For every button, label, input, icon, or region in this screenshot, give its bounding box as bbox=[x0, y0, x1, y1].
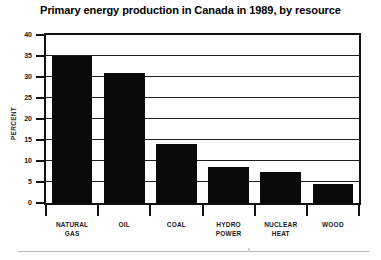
x-axis-tick bbox=[149, 205, 151, 216]
bar bbox=[313, 184, 354, 203]
y-axis-tick bbox=[36, 202, 44, 204]
page-rule-notch bbox=[248, 248, 250, 252]
y-axis-tick-label: 35 bbox=[0, 52, 32, 59]
y-axis-tick bbox=[36, 55, 44, 57]
x-axis-tick bbox=[306, 205, 308, 216]
bar-chart-figure: Primary energy production in Canada in 1… bbox=[0, 0, 381, 260]
bar-series bbox=[46, 35, 359, 203]
y-axis-tick-label: 0 bbox=[0, 199, 32, 206]
plot-area bbox=[44, 33, 361, 205]
y-axis-tick-label: 25 bbox=[0, 94, 32, 101]
y-axis-tick-label: 40 bbox=[0, 31, 32, 38]
x-axis-tick bbox=[254, 205, 256, 216]
y-axis-tick-label: 30 bbox=[0, 73, 32, 80]
y-axis-tick bbox=[36, 118, 44, 120]
x-axis-tick bbox=[45, 205, 47, 216]
x-axis-category-line: HEAT bbox=[243, 229, 319, 238]
y-axis-tick-label: 20 bbox=[0, 115, 32, 122]
y-axis-tick bbox=[36, 76, 44, 78]
chart-title: Primary energy production in Canada in 1… bbox=[8, 4, 374, 16]
y-axis-tick bbox=[36, 34, 44, 36]
x-axis-category-line: GAS bbox=[34, 229, 110, 238]
x-axis-tick bbox=[202, 205, 204, 216]
page-rule bbox=[18, 251, 370, 252]
y-axis-tick bbox=[36, 181, 44, 183]
bar bbox=[52, 56, 93, 203]
bar bbox=[260, 172, 301, 204]
y-axis-tick-label: 5 bbox=[0, 178, 32, 185]
x-axis-category-line: WOOD bbox=[295, 220, 371, 229]
y-axis-tick bbox=[36, 160, 44, 162]
bar bbox=[104, 73, 145, 203]
y-axis-tick bbox=[36, 97, 44, 99]
x-axis-tick bbox=[358, 205, 360, 216]
y-axis-tick-label: 15 bbox=[0, 136, 32, 143]
y-axis-tick bbox=[36, 139, 44, 141]
y-axis-label: PERCENT bbox=[10, 94, 17, 154]
y-axis-tick-label: 10 bbox=[0, 157, 32, 164]
bar bbox=[156, 144, 197, 203]
bar bbox=[208, 167, 249, 203]
x-axis-tick bbox=[97, 205, 99, 216]
x-axis-category-label: WOOD bbox=[295, 220, 371, 229]
